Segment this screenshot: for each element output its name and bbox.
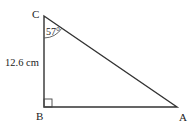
side-length-label: 12.6 cm <box>5 57 39 68</box>
triangle-abc <box>44 16 177 107</box>
vertex-label-c: C <box>32 8 39 20</box>
vertex-label-a: A <box>179 111 187 123</box>
vertex-label-b: B <box>36 110 43 122</box>
triangle-diagram: C B A 12.6 cm 57° <box>0 0 190 130</box>
triangle-svg: C B A 12.6 cm 57° <box>0 0 190 130</box>
right-angle-marker <box>44 99 52 107</box>
angle-label: 57° <box>46 26 60 37</box>
